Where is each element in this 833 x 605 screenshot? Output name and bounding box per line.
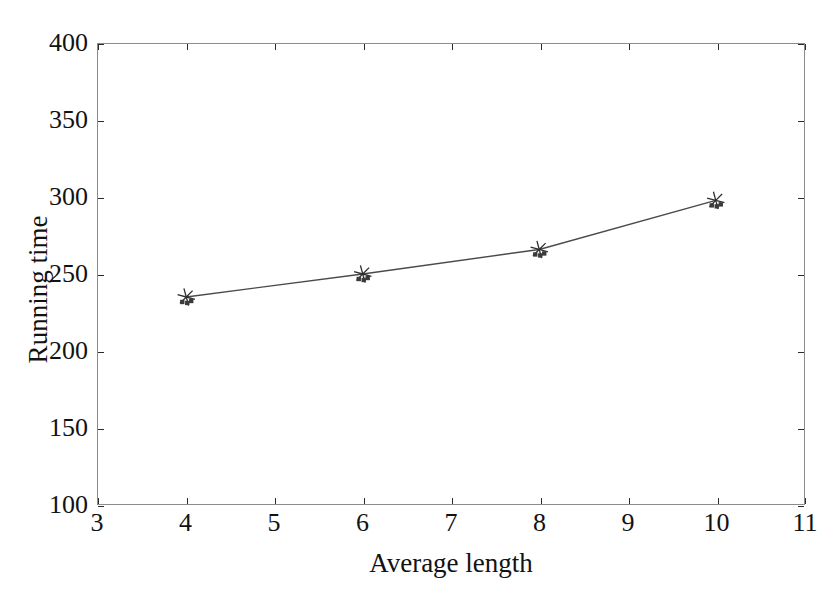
y-tick-label-350: 350 — [0, 107, 88, 133]
y-tick-label-250: 250 — [0, 261, 88, 287]
y-tick-label-400: 400 — [0, 30, 88, 56]
y-tick-label-200: 200 — [0, 338, 88, 364]
x-tick-label-4: 4 — [156, 508, 216, 538]
x-tick-label-11: 11 — [775, 508, 833, 538]
data-point-marker — [707, 192, 724, 209]
y-tick-mark-right-100 — [798, 506, 804, 507]
figure-canvas: Running time 100 150 200 250 300 350 400… — [0, 0, 833, 605]
data-point-marker — [178, 288, 195, 305]
x-tick-mark-11 — [805, 498, 806, 504]
data-point-marker — [531, 241, 548, 258]
y-tick-label-300: 300 — [0, 184, 88, 210]
data-point-marker — [354, 265, 371, 282]
x-tick-label-9: 9 — [598, 508, 658, 538]
x-tick-label-10: 10 — [687, 508, 747, 538]
x-tick-mark-top-11 — [805, 44, 806, 50]
x-tick-label-6: 6 — [333, 508, 393, 538]
series-markers — [178, 192, 725, 306]
x-tick-label-7: 7 — [421, 508, 481, 538]
y-tick-label-150: 150 — [0, 415, 88, 441]
x-tick-label-5: 5 — [244, 508, 304, 538]
x-tick-label-3: 3 — [67, 508, 127, 538]
x-axis-title: Average length — [97, 548, 805, 579]
plot-area — [97, 43, 805, 505]
x-tick-label-8: 8 — [510, 508, 570, 538]
data-series-layer — [98, 44, 804, 504]
y-tick-mark-100 — [98, 506, 104, 507]
series-line-running-time — [186, 200, 716, 297]
